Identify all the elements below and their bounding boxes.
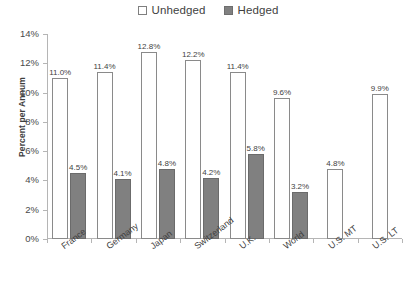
y-axis-tick-label: 6% <box>25 146 39 156</box>
legend-swatch-unhedged-icon <box>138 6 147 15</box>
bar-group: 4.8% <box>313 34 357 239</box>
bar-unhedged: 11.0% <box>52 78 68 239</box>
bar-group: 12.2%4.2% <box>180 34 224 239</box>
bar-value-label: 4.8% <box>158 160 176 168</box>
bar-unhedged: 11.4% <box>97 72 113 239</box>
bar-unhedged: 9.9% <box>372 94 388 239</box>
x-axis-tick <box>91 239 92 243</box>
bar-value-label: 3.2% <box>291 183 309 191</box>
x-axis-tick <box>313 239 314 243</box>
bar-unhedged: 4.8% <box>327 169 343 239</box>
bar-value-label: 11.4% <box>227 63 249 71</box>
bar-value-label: 12.2% <box>182 51 205 59</box>
bar-value-label: 11.0% <box>49 69 71 77</box>
x-axis-tick <box>225 239 226 243</box>
y-axis-tick-label: 10% <box>20 88 39 98</box>
bar-group: 11.0%4.5% <box>47 34 91 239</box>
bar-value-label: 4.1% <box>113 170 131 178</box>
bar-value-label: 12.8% <box>138 43 161 51</box>
bar-group: 9.9% <box>358 34 402 239</box>
bar-value-label: 9.9% <box>371 85 389 93</box>
legend-swatch-hedged-icon <box>224 6 233 15</box>
bar-chart: Unhedged Hedged Percent per Annum 0%2%4%… <box>0 0 416 300</box>
x-axis-tick <box>402 239 403 243</box>
y-axis-tick-label: 4% <box>25 176 39 186</box>
bar-hedged: 5.8% <box>248 154 264 239</box>
bar-value-label: 4.5% <box>69 164 87 172</box>
y-axis-tick-label: 8% <box>25 117 39 127</box>
y-axis-tick-label: 12% <box>20 59 39 69</box>
chart-legend: Unhedged Hedged <box>0 4 416 16</box>
bar-unhedged: 12.2% <box>185 60 201 239</box>
legend-item-hedged: Hedged <box>224 4 279 16</box>
bar-value-label: 4.8% <box>326 160 344 168</box>
legend-label-hedged: Hedged <box>238 4 279 16</box>
bar-group: 12.8%4.8% <box>136 34 180 239</box>
bar-unhedged: 11.4% <box>230 72 246 239</box>
y-axis-tick-label: 2% <box>25 205 39 215</box>
plot-area: 0%2%4%6%8%10%12%14% 11.0%4.5%11.4%4.1%12… <box>47 34 402 239</box>
y-axis-tick-label: 14% <box>20 29 39 39</box>
bar-group: 11.4%4.1% <box>91 34 135 239</box>
legend-label-unhedged: Unhedged <box>152 4 206 16</box>
bar-unhedged: 12.8% <box>141 52 157 239</box>
bar-group: 11.4%5.8% <box>225 34 269 239</box>
x-axis-tick <box>358 239 359 243</box>
bar-value-label: 9.6% <box>273 89 291 97</box>
y-axis-tick-label: 0% <box>25 234 39 244</box>
bar-value-label: 4.2% <box>202 169 220 177</box>
legend-item-unhedged: Unhedged <box>138 4 206 16</box>
bar-value-label: 5.8% <box>247 145 265 153</box>
bar-group: 9.6%3.2% <box>269 34 313 239</box>
x-axis-tick <box>136 239 137 243</box>
x-axis-tick <box>269 239 270 243</box>
x-axis-tick <box>180 239 181 243</box>
x-axis-tick <box>47 239 48 243</box>
bar-value-label: 11.4% <box>94 63 116 71</box>
bar-unhedged: 9.6% <box>274 98 290 239</box>
